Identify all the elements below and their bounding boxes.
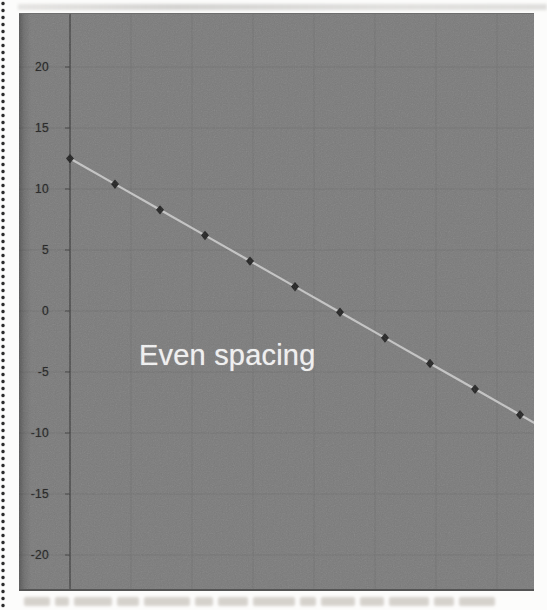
chart-plot-area: 20151050-5-10-15-20 Even spacing [19, 13, 534, 591]
scan-noise-overlay [19, 14, 534, 589]
bleedthrough-smudge [117, 597, 139, 606]
bleedthrough-smudge [195, 597, 213, 606]
bleedthrough-smudge [300, 597, 316, 606]
perforation-dots-border [0, 0, 8, 610]
page-bleedthrough-top [18, 4, 547, 10]
bleedthrough-smudge [321, 597, 355, 606]
bleedthrough-smudge [389, 597, 429, 606]
bleedthrough-smudge [144, 597, 190, 606]
page-bleedthrough-bottom [24, 595, 524, 608]
bleedthrough-smudge [24, 597, 50, 606]
bleedthrough-smudge [360, 597, 384, 606]
bleedthrough-smudge [218, 597, 248, 606]
bleedthrough-smudge [74, 597, 112, 606]
bleedthrough-smudge [434, 597, 454, 606]
scanned-page: 20151050-5-10-15-20 Even spacing [0, 0, 547, 610]
bleedthrough-smudge [253, 597, 295, 606]
bleedthrough-smudge [459, 597, 495, 606]
bleedthrough-smudge [55, 597, 69, 606]
